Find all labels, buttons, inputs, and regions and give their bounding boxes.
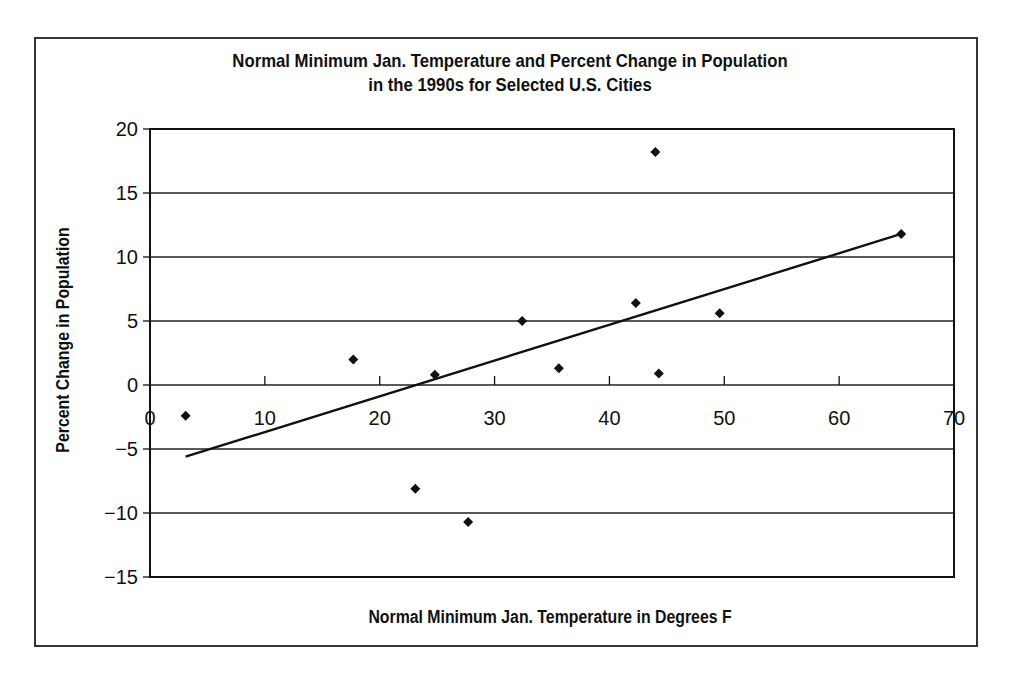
y-tick-label: 5 (127, 310, 138, 332)
x-tick-label: 40 (598, 407, 620, 429)
gridlines (150, 129, 954, 577)
data-point-diamond (654, 368, 664, 378)
y-tick-label: 20 (116, 118, 138, 140)
data-point-diamond (554, 363, 564, 373)
y-tick-label: −5 (115, 438, 138, 460)
y-tick-label: 15 (116, 182, 138, 204)
data-point-diamond (896, 229, 906, 239)
data-point-diamond (410, 484, 420, 494)
y-tick-label: 0 (127, 374, 138, 396)
data-points (181, 147, 907, 527)
trendline (186, 234, 902, 457)
x-tick-label: 50 (713, 407, 735, 429)
trendline (186, 234, 902, 457)
data-point-diamond (181, 411, 191, 421)
data-point-diamond (463, 517, 473, 527)
x-tick-label: 10 (254, 407, 276, 429)
axes (143, 129, 954, 577)
x-tick-label: 30 (483, 407, 505, 429)
plot-border (150, 129, 954, 577)
data-point-diamond (631, 298, 641, 308)
data-point-diamond (517, 316, 527, 326)
y-tick-label: −15 (104, 566, 138, 588)
x-tick-label: 0 (144, 407, 155, 429)
x-tick-label: 60 (828, 407, 850, 429)
tick-labels: 20151050−5−10−15010203040506070 (104, 118, 965, 588)
plot-area: 20151050−5−10−15010203040506070 (0, 0, 1020, 684)
data-point-diamond (348, 354, 358, 364)
y-tick-label: −10 (104, 502, 138, 524)
x-tick-label: 20 (369, 407, 391, 429)
x-tick-label: 70 (943, 407, 965, 429)
data-point-diamond (650, 147, 660, 157)
y-tick-label: 10 (116, 246, 138, 268)
data-point-diamond (715, 308, 725, 318)
